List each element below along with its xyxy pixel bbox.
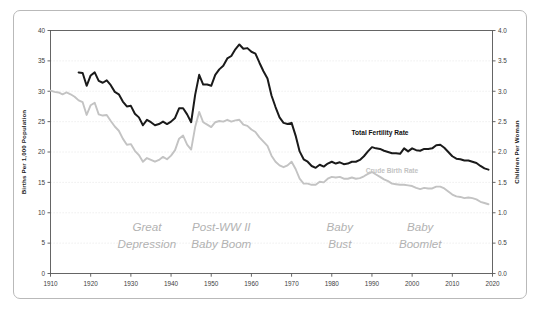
x-tick-label: 1940 [164, 280, 179, 287]
chart-svg: 05101520253035400.00.51.01.52.02.53.03.5… [0, 0, 541, 311]
annotation-baby-boomlet: Baby [407, 220, 435, 233]
y-axis-right: 0.00.51.01.52.02.53.03.54.0 [493, 27, 508, 277]
series-group [51, 44, 489, 204]
y2-tick-label: 1.5 [498, 179, 507, 186]
y-axis-left: 0510152025303540 [38, 27, 51, 277]
y2-tick-label: 0.0 [498, 270, 507, 277]
y2-tick-label: 1.0 [498, 209, 507, 216]
fertility-birthrate-chart: 05101520253035400.00.51.01.52.02.53.03.5… [0, 0, 541, 311]
y-tick-label: 40 [38, 27, 46, 34]
series-line-total-fertility-rate [79, 44, 489, 169]
x-tick-label: 1960 [244, 280, 259, 287]
x-tick-label: 1950 [204, 280, 219, 287]
x-tick-label: 1970 [284, 280, 299, 287]
y2-tick-label: 4.0 [498, 27, 507, 34]
annotation-great-depression: Depression [118, 237, 177, 250]
y-axis-title: Births Per 1,000 Population [20, 110, 27, 195]
y-tick-label: 10 [38, 209, 46, 216]
annotation-post-ww2-baby-boom: Baby Boom [191, 237, 251, 250]
annotation-great-depression: Great [132, 220, 162, 233]
annotation-baby-boomlet: Boomlet [399, 237, 442, 250]
series-line-crude-birth-rate [51, 91, 489, 205]
series-label-crude-birth-rate: Crude Birth Rate [366, 167, 419, 174]
x-tick-label: 2000 [405, 280, 420, 287]
gridlines [51, 61, 493, 243]
x-tick-label: 1990 [365, 280, 380, 287]
x-tick-label: 1920 [84, 280, 99, 287]
y-tick-label: 15 [38, 179, 46, 186]
x-tick-label: 1910 [43, 280, 58, 287]
y2-tick-label: 2.0 [498, 148, 507, 155]
annotation-post-ww2-baby-boom: Post-WW II [192, 220, 251, 233]
x-axis: 1910192019301940195019601970198019902000… [43, 274, 500, 287]
annotation-baby-bust: Bust [328, 237, 352, 250]
series-label-total-fertility-rate: Total Fertility Rate [351, 129, 408, 137]
y-tick-label: 20 [38, 148, 46, 155]
y-tick-label: 0 [41, 270, 45, 277]
y-tick-label: 30 [38, 88, 46, 95]
y-tick-label: 35 [38, 57, 46, 64]
y-tick-label: 25 [38, 118, 46, 125]
x-tick-label: 1980 [325, 280, 340, 287]
y2-axis-title: Children Per Woman [513, 120, 520, 184]
x-tick-label: 1930 [124, 280, 139, 287]
y-tick-label: 5 [41, 239, 45, 246]
x-tick-label: 2010 [445, 280, 460, 287]
y2-tick-label: 2.5 [498, 118, 507, 125]
era-annotations: GreatDepressionPost-WW IIBaby BoomBabyBu… [118, 220, 443, 250]
annotation-baby-bust: Baby [327, 220, 355, 233]
x-tick-label: 2020 [485, 280, 500, 287]
y2-tick-label: 3.5 [498, 57, 507, 64]
y2-tick-label: 3.0 [498, 88, 507, 95]
y2-tick-label: 0.5 [498, 239, 507, 246]
